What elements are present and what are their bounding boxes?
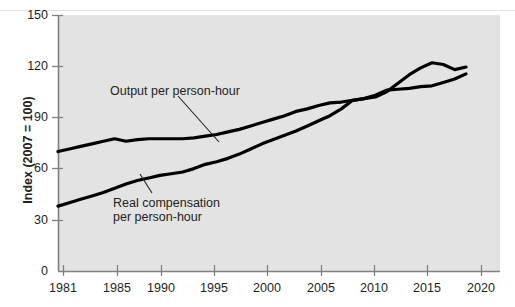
- plot-background: [58, 15, 500, 271]
- annotation-compensation-line1: Real compensation: [113, 196, 220, 210]
- annotation-real-compensation-per-person-hour: Real compensation per person-hour: [113, 196, 220, 224]
- chart-container: Index (2007 = 100) 150 120 90 60 30 0 19…: [0, 0, 515, 307]
- annotation-output-per-person-hour: Output per person-hour: [110, 84, 240, 98]
- plot-area: [0, 0, 515, 307]
- annotation-compensation-line2: per person-hour: [113, 210, 220, 224]
